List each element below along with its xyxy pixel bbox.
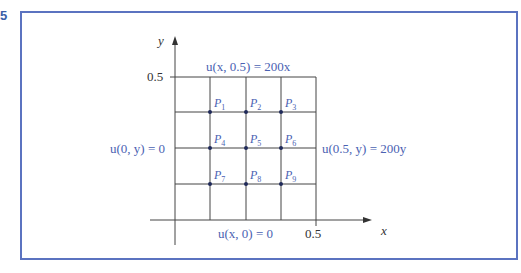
y-axis-arrow-icon (172, 36, 178, 45)
grid-diagram: y x 0.5 0.5 u(x, 0.5) = 200x u(0, y) = 0… (0, 0, 521, 273)
point-labels: P1 P2 P3 P4 P5 P6 P7 P8 P9 (213, 96, 296, 184)
grid-lines (175, 77, 316, 226)
y-axis-label: y (156, 33, 164, 48)
x-axis-arrow-icon (363, 217, 372, 223)
x-axis-label: x (380, 223, 387, 238)
point-label-p3: P3 (284, 96, 296, 112)
x-tick-label: 0.5 (305, 226, 321, 241)
bc-top: u(x, 0.5) = 200x (206, 59, 291, 74)
point-label-p6: P6 (284, 132, 296, 148)
point-label-p2: P2 (249, 96, 261, 112)
bc-bottom: u(x, 0) = 0 (218, 226, 273, 241)
y-tick-label: 0.5 (147, 69, 163, 84)
point-label-p4: P4 (213, 132, 225, 148)
point-label-p7: P7 (213, 168, 225, 184)
point-label-p8: P8 (249, 168, 261, 184)
bc-right: u(0.5, y) = 200y (322, 141, 407, 156)
point-label-p9: P9 (284, 168, 296, 184)
point-label-p5: P5 (249, 132, 261, 148)
bc-left: u(0, y) = 0 (110, 141, 165, 156)
point-label-p1: P1 (213, 96, 225, 112)
